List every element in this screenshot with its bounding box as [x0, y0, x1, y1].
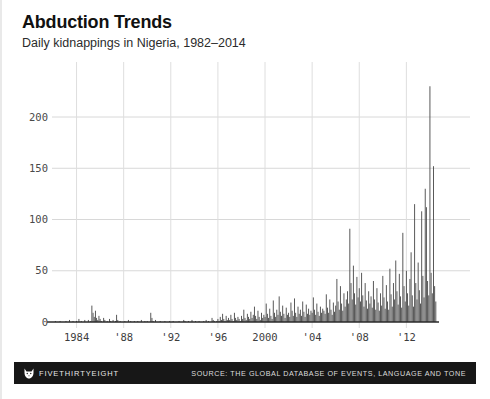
y-axis-tick-labels: 050100150200 [29, 111, 48, 328]
chart-subtitle: Daily kidnappings in Nigeria, 1982–2014 [22, 36, 462, 51]
svg-text:'08: '08 [350, 331, 369, 343]
chart-footer: FIVETHIRTYEIGHT SOURCE: THE GLOBAL DATAB… [14, 362, 476, 384]
svg-text:100: 100 [29, 213, 48, 225]
horizontal-gridlines [52, 117, 470, 271]
chart-header: Abduction Trends Daily kidnappings in Ni… [22, 12, 462, 51]
bar-series [55, 86, 436, 322]
x-axis-tick-labels: 1984'88'92'962000'04'08'12 [64, 331, 416, 343]
svg-text:'04: '04 [303, 331, 322, 343]
source-label: SOURCE: THE GLOBAL DATABASE OF EVENTS, L… [191, 369, 466, 378]
svg-text:'88: '88 [114, 331, 133, 343]
svg-text:2000: 2000 [252, 331, 277, 343]
svg-text:'12: '12 [397, 331, 416, 343]
svg-text:1984: 1984 [64, 331, 89, 343]
svg-text:'92: '92 [161, 331, 180, 343]
fox-head-icon [24, 368, 34, 379]
svg-text:50: 50 [35, 264, 48, 276]
svg-text:'96: '96 [208, 331, 227, 343]
svg-text:200: 200 [29, 111, 48, 123]
brand-block: FIVETHIRTYEIGHT [24, 362, 119, 384]
brand-label: FIVETHIRTYEIGHT [39, 369, 119, 378]
bar-chart: 050100150200 1984'88'92'962000'04'08'12 [0, 62, 490, 358]
svg-text:150: 150 [29, 162, 48, 174]
chart-card: Abduction Trends Daily kidnappings in Ni… [0, 0, 490, 399]
plot-area: 050100150200 1984'88'92'962000'04'08'12 [0, 62, 490, 358]
svg-text:0: 0 [42, 316, 48, 328]
source-block: SOURCE: THE GLOBAL DATABASE OF EVENTS, L… [191, 362, 466, 384]
page-title: Abduction Trends [22, 12, 462, 32]
